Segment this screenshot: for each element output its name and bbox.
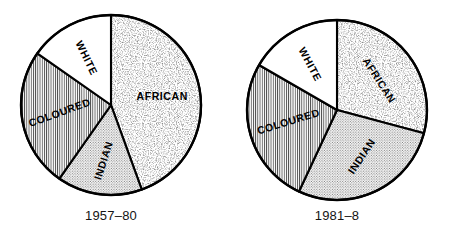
pie-chart-1957-80: AFRICANINDIANCOLOUREDWHITE [21, 15, 201, 195]
pie-chart-1981-8: AFRICANINDIANCOLOUREDWHITE [247, 20, 427, 200]
chart-caption-1981-8: 1981–8 [272, 208, 402, 223]
pie-charts-svg: AFRICANINDIANCOLOUREDWHITE AFRICANINDIAN… [0, 0, 450, 243]
pie-chart-figure: AFRICANINDIANCOLOUREDWHITE AFRICANINDIAN… [0, 0, 450, 243]
chart-caption-1957-80: 1957–80 [46, 208, 176, 223]
pie-slice-label-african: AFRICAN [136, 90, 187, 102]
